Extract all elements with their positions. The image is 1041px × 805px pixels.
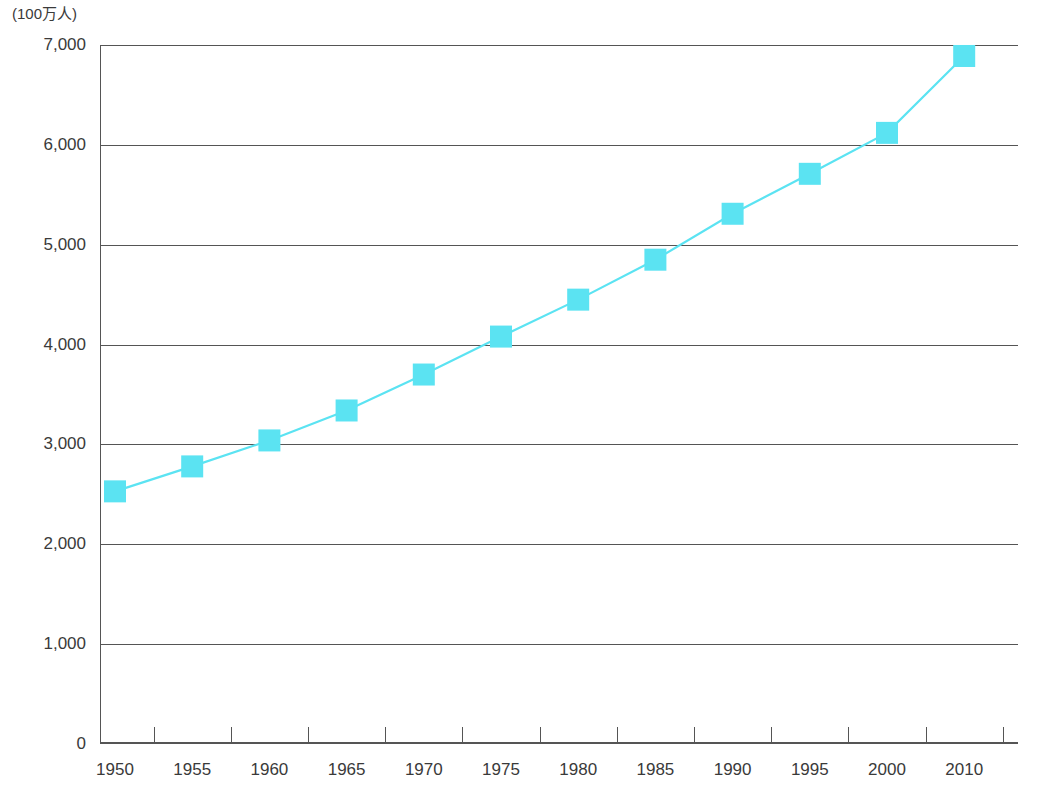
plot-area: [100, 45, 1018, 744]
data-point-marker: [799, 163, 821, 185]
data-point-marker: [953, 45, 975, 67]
y-tick-label: 7,000: [0, 35, 86, 55]
series-line: [115, 56, 964, 491]
data-point-marker: [876, 122, 898, 144]
x-tick-label: 1965: [328, 760, 366, 780]
population-line-chart: (100万人) 01,0002,0003,0004,0005,0006,0007…: [0, 0, 1041, 805]
x-tick-label: 1970: [405, 760, 443, 780]
x-tick-label: 1985: [636, 760, 674, 780]
y-tick-label: 1,000: [0, 634, 86, 654]
x-tick-label: 1990: [714, 760, 752, 780]
y-axis-tick-labels: 01,0002,0003,0004,0005,0006,0007,000: [0, 45, 86, 744]
data-point-marker: [336, 399, 358, 421]
data-point-marker: [413, 364, 435, 386]
x-tick-label: 1975: [482, 760, 520, 780]
data-point-marker: [644, 249, 666, 271]
y-tick-label: 4,000: [0, 335, 86, 355]
data-point-marker: [181, 455, 203, 477]
data-point-marker: [258, 429, 280, 451]
data-point-marker: [490, 326, 512, 348]
x-tick-label: 1980: [559, 760, 597, 780]
y-tick-label: 0: [0, 734, 86, 754]
y-tick-label: 6,000: [0, 135, 86, 155]
x-tick-label: 2000: [868, 760, 906, 780]
data-point-marker: [722, 203, 744, 225]
y-tick-label: 5,000: [0, 235, 86, 255]
y-axis-unit-label: (100万人): [12, 2, 77, 23]
data-point-marker: [104, 480, 126, 502]
x-tick-label: 1955: [173, 760, 211, 780]
series-line-and-markers: [100, 45, 1018, 744]
y-tick-label: 3,000: [0, 434, 86, 454]
x-tick-label: 2010: [945, 760, 983, 780]
y-tick-label: 2,000: [0, 534, 86, 554]
x-tick-label: 1995: [791, 760, 829, 780]
x-tick-label: 1960: [250, 760, 288, 780]
data-point-marker: [567, 289, 589, 311]
x-tick-label: 1950: [96, 760, 134, 780]
